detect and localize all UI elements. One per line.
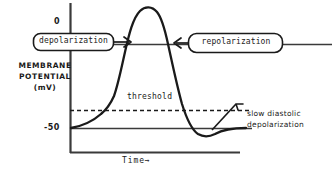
action-potential-curve [71,7,246,136]
y-axis-label-units: (mV) [3,84,87,92]
x-axis-label: Time→ [122,157,151,166]
slow-diastolic-leader-line [212,104,236,130]
threshold-label: threshold [127,93,172,102]
y-axis-label-line2: POTENTIAL [3,73,87,81]
slow-diastolic-label-line2: depolarization [247,121,304,129]
y-axis-label-line1: MEMBRANE [3,62,87,70]
figure-canvas: 0 -50 MEMBRANE POTENTIAL (mV) depolariza… [0,0,332,174]
slow-diastolic-label-line1: slow diastolic [247,110,301,118]
slow-diastolic-arrow-head [236,104,243,110]
repolarization-label: repolarization [189,38,283,47]
y-tick-label-minus50: -50 [44,124,60,133]
depolarization-label: depolarization [33,37,114,46]
y-tick-label-0: 0 [54,18,60,27]
